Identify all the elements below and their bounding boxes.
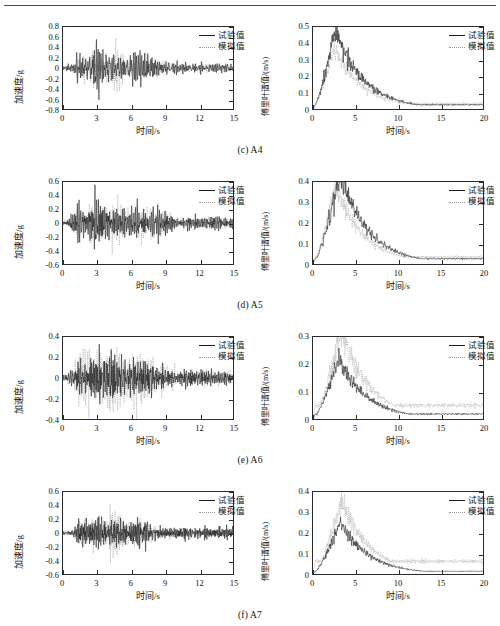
timehistory-x-tick	[201, 105, 202, 109]
legend-entry-simulated: 模拟值	[449, 351, 495, 362]
timehistory-x-tick-label: 9	[163, 579, 167, 588]
timehistory-y-tick	[229, 238, 233, 239]
fourier-y-tick	[479, 365, 483, 366]
fourier-y-tick-label: 0	[305, 416, 309, 425]
fourier-y-tick	[479, 245, 483, 246]
timehistory-y-tick	[229, 492, 233, 493]
fourier-x-tick-label: 5	[353, 579, 357, 588]
fourier-x-tick	[356, 415, 357, 419]
timehistory-y-tick-label: -0.2	[46, 395, 59, 404]
panel-timehistory-row2: 加速度/g 0.40.20-0.2-0.4 03691215 时间/s 试验值 …	[0, 322, 250, 452]
legend-label-simulated: 模拟值	[218, 41, 245, 52]
timehistory-y-tick	[229, 562, 233, 563]
timehistory-x-tick	[132, 570, 133, 574]
page-top-rule	[4, 5, 496, 6]
fourier-x-axis-title: 时间/s	[312, 589, 484, 602]
fourier-y-tick-label: 0.4	[298, 39, 309, 48]
timehistory-x-tick-label: 6	[129, 114, 133, 123]
timehistory-y-axis-title: 加速度/g	[12, 70, 25, 104]
fourier-y-axis-title: 傅里叶谱值/(m/s)	[259, 367, 270, 426]
fourier-y-tick	[479, 77, 483, 78]
timehistory-x-tick	[166, 415, 167, 419]
timehistory-x-tick	[97, 570, 98, 574]
legend-label-experimental: 试验值	[218, 30, 245, 41]
legend-entry-experimental: 试验值	[199, 495, 245, 506]
timehistory-y-axis-title: 加速度/g	[12, 225, 25, 259]
series-experimental	[313, 517, 483, 574]
fourier-x-tick-label: 20	[480, 114, 489, 123]
fourier-x-tick	[356, 105, 357, 109]
fourier-y-tick	[479, 534, 483, 535]
fourier-y-tick-label: 0.2	[298, 529, 309, 538]
figure-row-3: 加速度/g 0.60.40.20-0.2-0.4-0.6 03691215 时间…	[0, 477, 500, 626]
fourier-x-tick-label: 20	[480, 269, 489, 278]
timehistory-y-tick	[229, 252, 233, 253]
timehistory-x-tick	[132, 260, 133, 264]
timehistory-y-tick	[229, 101, 233, 102]
timehistory-y-tick	[229, 80, 233, 81]
fourier-y-tick-label: 0.4	[298, 487, 309, 496]
legend-label-simulated: 模拟值	[218, 506, 245, 517]
legend-entry-experimental: 试验值	[449, 495, 495, 506]
timehistory-y-tick-label: -0.4	[46, 557, 59, 566]
fourier-y-tick	[479, 182, 483, 183]
legend-label-simulated: 模拟值	[468, 196, 495, 207]
timehistory-x-tick	[97, 260, 98, 264]
legend-label-experimental: 试验值	[218, 185, 245, 196]
legend-entry-experimental: 试验值	[199, 185, 245, 196]
panel-fourier-row2: 傅里叶谱值/(m/s) 0.30.20.10 05101520 时间/s 试验值…	[250, 322, 500, 452]
legend-swatch-solid-line-icon	[199, 345, 215, 346]
legend-entry-simulated: 模拟值	[199, 351, 245, 362]
fourier-x-axis-title: 时间/s	[312, 434, 484, 447]
timehistory-x-tick-label: 0	[60, 424, 64, 433]
timehistory-x-axis-title: 时间/s	[62, 279, 234, 292]
legend-label-simulated: 模拟值	[218, 196, 245, 207]
timehistory-y-tick-label: 0.8	[48, 22, 59, 31]
timehistory-y-tick-label: -0.4	[46, 416, 59, 425]
timehistory-x-tick-label: 15	[230, 114, 239, 123]
timehistory-y-tick	[229, 182, 233, 183]
legend-swatch-solid-line-icon	[199, 190, 215, 191]
fourier-y-tick-label: 0.5	[298, 22, 309, 31]
fourier-y-tick	[479, 393, 483, 394]
fourier-x-tick	[399, 260, 400, 264]
fourier-x-tick	[356, 570, 357, 574]
fourier-y-tick-label: 0.1	[298, 388, 309, 397]
legend-swatch-solid-line-icon	[449, 500, 465, 501]
fourier-x-tick	[356, 260, 357, 264]
timehistory-y-tick-label: 0.6	[48, 32, 59, 41]
legend-entry-experimental: 试验值	[449, 340, 495, 351]
fourier-y-axis-title: 傅里叶谱值/(m/s)	[259, 522, 270, 581]
timehistory-y-tick	[229, 520, 233, 521]
fourier-legend: 试验值 模拟值	[449, 340, 495, 363]
legend-entry-experimental: 试验值	[449, 30, 495, 41]
timehistory-y-tick-label: -0.6	[46, 95, 59, 104]
panel-fourier-row1: 傅里叶谱值/(m/s) 0.40.30.20.10 05101520 时间/s …	[250, 167, 500, 297]
timehistory-x-tick	[97, 105, 98, 109]
legend-swatch-dotted-line-icon	[449, 202, 465, 203]
fourier-y-tick-label: 0.1	[298, 240, 309, 249]
fourier-y-tick-label: 0	[305, 261, 309, 270]
fourier-x-tick	[442, 105, 443, 109]
fourier-x-tick-label: 0	[310, 579, 314, 588]
fourier-x-tick-label: 10	[394, 269, 403, 278]
fourier-y-tick-label: 0.1	[298, 89, 309, 98]
timehistory-x-tick-label: 12	[195, 114, 204, 123]
legend-swatch-dotted-line-icon	[449, 357, 465, 358]
fourier-x-tick-label: 20	[480, 424, 489, 433]
timehistory-x-tick-label: 15	[230, 424, 239, 433]
fourier-x-tick-label: 10	[394, 114, 403, 123]
legend-entry-simulated: 模拟值	[449, 41, 495, 52]
fourier-x-tick-label: 0	[310, 424, 314, 433]
fourier-y-tick-label: 0.3	[298, 198, 309, 207]
fourier-x-tick	[442, 260, 443, 264]
timehistory-x-tick-label: 15	[230, 579, 239, 588]
legend-entry-simulated: 模拟值	[449, 506, 495, 517]
timehistory-y-tick	[229, 90, 233, 91]
fourier-x-tick	[313, 570, 314, 574]
fourier-x-tick-label: 10	[394, 579, 403, 588]
timehistory-x-tick	[63, 260, 64, 264]
timehistory-y-tick-label: -0.2	[46, 74, 59, 83]
timehistory-x-tick-label: 15	[230, 269, 239, 278]
timehistory-x-tick-label: 6	[129, 269, 133, 278]
